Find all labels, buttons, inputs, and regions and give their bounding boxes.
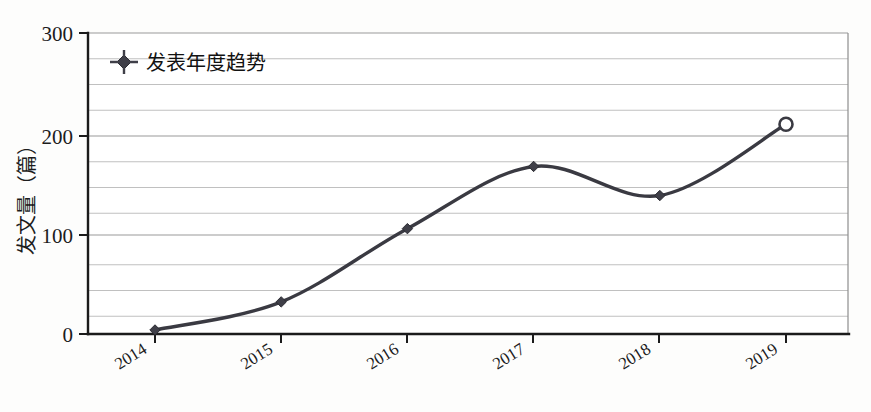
x-tick-label-2015: 2015 [237, 339, 276, 373]
chart-canvas: 300 200 100 0 发文量（篇） 2014 2015 2016 2017… [0, 0, 871, 412]
line-chart-figure: 300 200 100 0 发文量（篇） 2014 2015 2016 2017… [0, 0, 871, 412]
plot-area-background [88, 33, 848, 334]
y-axis-ticks [79, 33, 88, 334]
y-axis-title: 发文量（篇） [16, 135, 38, 255]
y-tick-label-100: 100 [42, 224, 74, 248]
x-tick-label-2017: 2017 [489, 339, 528, 373]
x-tick-label-2014: 2014 [111, 339, 150, 373]
x-tick-label-2018: 2018 [615, 339, 654, 373]
legend-label-publication-trend: 发表年度趋势 [146, 52, 266, 74]
y-tick-label-300: 300 [42, 22, 74, 46]
x-tick-label-2016: 2016 [363, 339, 402, 373]
y-tick-label-0: 0 [63, 323, 74, 347]
x-axis-ticks [155, 334, 786, 343]
data-point-marker-2019 [780, 118, 793, 131]
x-tick-label-2019: 2019 [742, 339, 781, 373]
y-tick-label-200: 200 [42, 125, 74, 149]
